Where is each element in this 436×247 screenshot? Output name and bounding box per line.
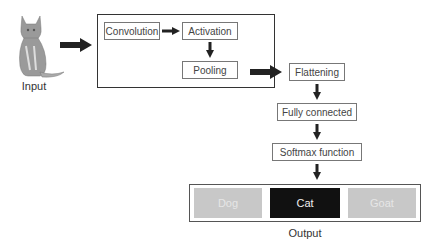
arrow-down-icon (313, 164, 321, 180)
pooling-node: Pooling (182, 61, 238, 79)
arrow-right-icon (250, 65, 282, 79)
fully-connected-node: Fully connected (277, 103, 357, 121)
flattening-node: Flattening (289, 63, 345, 81)
activation-node: Activation (182, 22, 238, 40)
arrow-right-icon (60, 38, 92, 52)
arrow-down-icon (313, 84, 321, 100)
convolution-node: Convolution (104, 22, 160, 40)
arrow-down-icon (206, 42, 214, 58)
output-label: Output (285, 227, 325, 239)
arrow-down-icon (313, 124, 321, 140)
input-label: Input (14, 80, 54, 92)
arrow-right-icon (162, 27, 180, 35)
output-class-goat: Goat (348, 188, 416, 218)
softmax-node: Softmax function (272, 143, 362, 161)
cat-image (10, 10, 60, 80)
output-class-cat: Cat (270, 188, 340, 218)
output-class-dog: Dog (194, 188, 262, 218)
